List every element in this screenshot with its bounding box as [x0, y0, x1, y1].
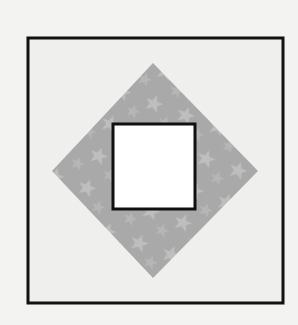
diagram-canvas	[0, 0, 298, 325]
nested-squares-diagram	[0, 0, 298, 325]
inner-white-square	[113, 124, 195, 209]
